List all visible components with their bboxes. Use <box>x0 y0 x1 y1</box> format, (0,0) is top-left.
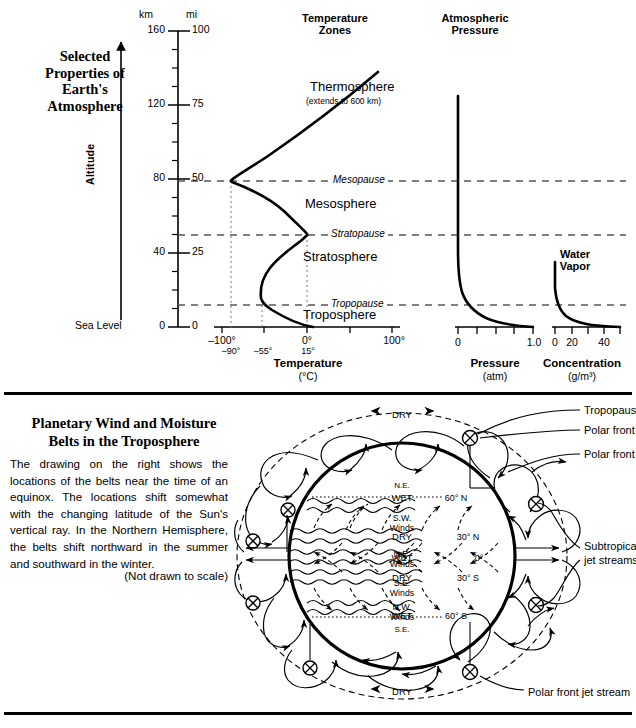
pause-stratopause: Stratopause <box>328 228 388 239</box>
label-lat-60s: 60° S <box>445 611 467 621</box>
watervapor-axis-unit: (g/m³) <box>528 370 636 382</box>
label-wet-60s: WET <box>391 610 412 621</box>
label-sw-winds-line1: S.W. <box>393 513 412 523</box>
jet-symbol-polar-south-left <box>303 661 317 675</box>
pressure-tick-1: 1.0 <box>521 336 547 348</box>
callout-subtropical-line2: jet streams <box>583 554 636 566</box>
altitude-axis-label: Altitude <box>84 144 96 185</box>
divider-top <box>4 392 632 395</box>
wind-circulation-diagram: DRY N.E. WET 60° N S.W. Winds DRY 30° N … <box>232 400 636 710</box>
label-lat-30n: 30° N <box>457 532 480 542</box>
label-se-south-small: S.E. <box>394 625 409 634</box>
pause-tropopause: Tropopause <box>328 298 387 309</box>
callout-subtropical-line1: Subtropical <box>584 540 636 552</box>
jet-symbol-subtropical-west <box>246 534 260 548</box>
pause-mesopause: Mesopause <box>330 174 388 185</box>
callout-polar-front: Polar front <box>584 448 635 460</box>
wind-title-line-1: Planetary Wind and Moisture <box>14 414 234 432</box>
diagram-page: Selected Properties of Earth's Atmospher… <box>0 0 636 728</box>
jet-symbol-subtropical-southeast <box>529 598 544 613</box>
label-wet-60n: WET <box>391 492 412 503</box>
temp-annotation-minus-90: –90° <box>217 346 245 356</box>
panel-title-wind-belts: Planetary Wind and Moisture Belts in the… <box>14 414 234 450</box>
mi-tick-50: 50 <box>192 171 204 183</box>
temp-tick-minus-100: –100° <box>206 334 238 346</box>
callout-polar-front-jet-north: Polar front jet stream <box>584 424 636 436</box>
temperature-axis-unit: (°C) <box>243 370 373 382</box>
mi-tick-25: 25 <box>192 245 204 257</box>
label-wet-equator: WET <box>391 552 412 563</box>
not-to-scale-note: (Not drawn to scale) <box>10 568 228 585</box>
label-lat-0: 0° <box>475 553 484 563</box>
mi-tick-0: 0 <box>192 319 198 331</box>
watervapor-axis-label: Concentration <box>528 357 636 369</box>
zone-mesosphere: Mesosphere <box>305 196 377 211</box>
km-tick-160: 160 <box>139 23 165 35</box>
label-lat-60n: 60° N <box>445 493 468 503</box>
wind-title-line-2: Belts in the Troposphere <box>14 432 234 450</box>
pressure-tick-0: 0 <box>447 336 469 348</box>
label-dry-30n: DRY <box>392 531 413 542</box>
sea-level-label: Sea Level <box>75 319 122 331</box>
thermosphere-note: (extends to 600 km) <box>306 96 381 106</box>
leader-polar-front <box>508 454 580 472</box>
jet-symbol-subtropical-southwest <box>246 596 260 610</box>
temp-annotation-minus-55: –55° <box>249 346 277 356</box>
callout-polar-front-jet-south: Polar front jet stream <box>528 686 630 698</box>
atmosphere-axes-svg <box>0 0 636 390</box>
callout-tropopause: Tropopause <box>584 404 636 416</box>
label-se-winds-line2: Winds <box>390 588 415 598</box>
leader-polar-front-jet-south <box>480 676 524 690</box>
label-dry-south-outer: DRY <box>392 686 413 697</box>
jet-symbol-polar-north-right <box>463 431 478 446</box>
km-tick-120: 120 <box>139 97 165 109</box>
divider-bottom <box>4 712 632 715</box>
temp-tick-0: 0° <box>295 334 319 346</box>
km-tick-0: 0 <box>139 319 165 331</box>
wind-belts-description: The drawing on the right shows the locat… <box>10 456 228 572</box>
temp-tick-100: 100° <box>379 334 409 346</box>
atmosphere-panel: Selected Properties of Earth's Atmospher… <box>0 0 636 390</box>
wind-belts-panel: Planetary Wind and Moisture Belts in the… <box>0 398 636 712</box>
label-dry-30s: DRY <box>392 572 413 583</box>
km-tick-40: 40 <box>139 245 165 257</box>
pressure-curve <box>458 96 533 327</box>
watervapor-tick-20: 20 <box>562 336 582 348</box>
zone-thermosphere: Thermosphere <box>310 79 395 94</box>
zone-stratosphere: Stratosphere <box>303 249 377 264</box>
watervapor-tick-40: 40 <box>594 336 614 348</box>
callout-text: Tropopause Polar front jet stream Polar … <box>528 404 636 698</box>
watervapor-curve <box>555 262 620 327</box>
mi-tick-75: 75 <box>192 97 204 109</box>
temperature-axis-label: Temperature <box>243 357 373 369</box>
temp-annotation-15: 15° <box>296 346 320 356</box>
label-lat-30s: 30° S <box>457 573 479 583</box>
jet-symbol-polar-north-left <box>281 503 295 517</box>
label-dry-north-outer: DRY <box>392 409 413 420</box>
jet-symbol-polar-south-right <box>463 665 478 680</box>
zone-troposphere: Troposphere <box>303 307 376 322</box>
label-ne-north-small: N.E. <box>394 481 410 490</box>
km-tick-80: 80 <box>139 171 165 183</box>
mi-tick-100: 100 <box>192 23 210 35</box>
